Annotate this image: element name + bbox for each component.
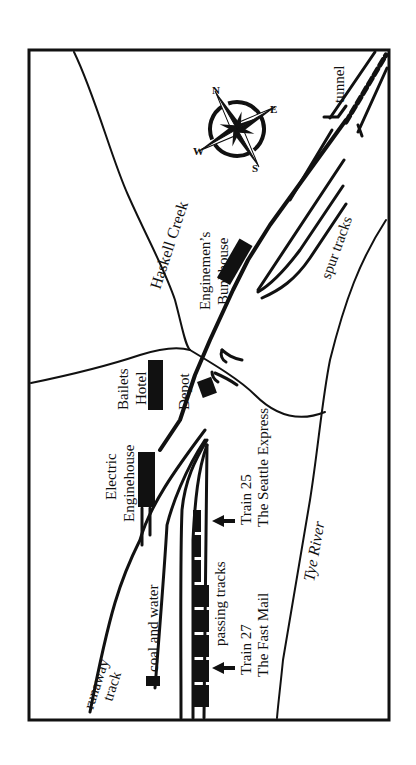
bunkhouse-label-line2: Bunkhouse [215,237,231,305]
tye-river-line [277,220,386,718]
bunkhouse-label-line1: Enginemen’s [197,232,213,310]
spur-tracks-label: spur tracks [318,214,355,281]
train-27-label-line2: The Fast Mail [255,593,271,677]
train-25-arrow-icon [212,515,235,527]
train-27-arrow-icon [212,662,235,674]
haskell-creek-label: Haskell Creek [147,199,191,291]
train-27-cars [201,585,209,707]
passing-tracks-label: passing tracks [212,561,228,646]
haskell-creek-line [74,52,190,350]
railroad-yard-map: N E S W Haskell Creek tunnel Enginemen’s… [0,0,416,765]
hotel-label-line1: Bailets [115,368,131,410]
hotel-label-line2: Hotel [133,372,149,405]
compass-w-label: W [193,145,204,157]
compass-e-label: E [270,103,277,115]
train-27-label-line1: Train 27 [238,624,254,675]
road-west-line [31,348,190,383]
tunnel-label: tunnel [331,66,347,104]
train-25-label-line1: Train 25 [238,474,254,525]
enginehouse-building [138,452,155,507]
compass-n-label: N [212,84,220,96]
enginehouse-label-line1: Electric [103,453,119,500]
bridge-mark-1 [222,350,242,360]
compass-s-label: S [252,162,258,174]
depot-label: Depot [176,373,192,410]
coal-water-station [146,676,160,686]
hotel-building [148,360,163,410]
enginehouse-label-line2: Enginehouse [121,444,137,522]
coal-water-label: coal and water [145,585,161,672]
compass-rose-icon [177,69,297,189]
train-25-label-line2: The Seattle Express [255,408,271,527]
